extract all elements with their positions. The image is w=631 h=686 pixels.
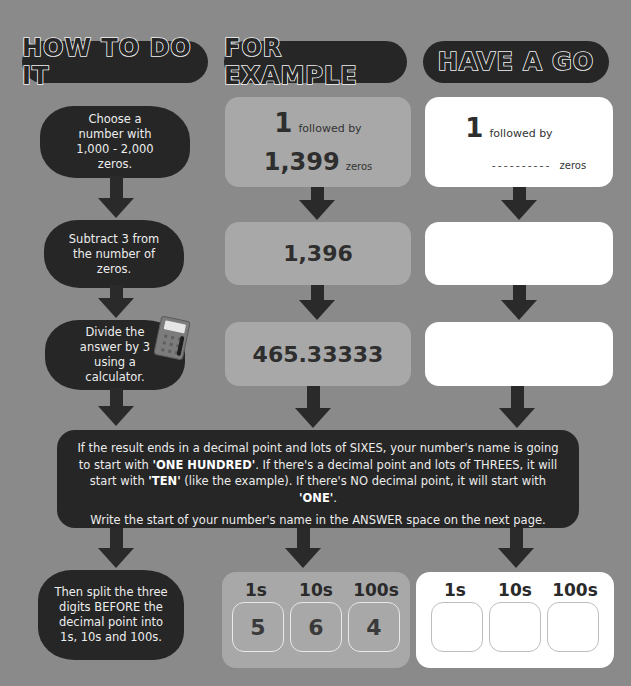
result-paragraph: If the result ends in a decimal point an…	[71, 440, 565, 506]
arrow-down-icon	[98, 406, 134, 426]
example-zeros-label: zeros	[346, 161, 373, 172]
go-label-1s: 1s	[428, 580, 482, 600]
example-label-100s: 100s	[349, 580, 403, 600]
arrow-down-icon	[501, 200, 537, 220]
go-row2-box[interactable]	[425, 222, 613, 285]
result-write-instruction: Write the start of your number's name in…	[71, 512, 565, 529]
arrow-down-icon	[110, 528, 123, 550]
arrow-down-icon	[98, 298, 134, 318]
header-example-label: FOR EXAMPLE	[224, 34, 407, 90]
go-label-10s: 10s	[488, 580, 542, 600]
example-row3-box: 465.33333	[225, 322, 411, 386]
example-one: 1	[274, 108, 292, 138]
result-one: 'ONE'	[299, 491, 333, 505]
step-2-text: Subtract 3 from the number of zeros.	[66, 232, 162, 277]
result-ten: 'TEN'	[148, 474, 180, 488]
arrow-down-icon	[299, 200, 335, 220]
example-label-10s: 10s	[289, 580, 343, 600]
header-have-a-go: HAVE A GO	[423, 41, 609, 83]
go-row3-box[interactable]	[425, 322, 613, 386]
result-text-g: .	[333, 491, 337, 505]
go-row1-box[interactable]: 1 followed by ---------- zeros	[425, 97, 613, 187]
go-label-100s: 100s	[548, 580, 602, 600]
arrow-down-icon	[499, 408, 535, 428]
result-one-hundred: 'ONE HUNDRED'	[153, 458, 256, 472]
arrow-down-icon	[511, 386, 524, 410]
arrow-down-icon	[285, 548, 321, 568]
header-how-to-do-it: HOW TO DO IT	[22, 41, 208, 83]
step-4: Then split the three digits BEFORE the d…	[38, 570, 184, 660]
example-row1-box: 1 followed by 1,399 zeros	[225, 97, 411, 187]
example-label-1s: 1s	[229, 580, 283, 600]
example-subtract-result: 1,396	[283, 241, 353, 266]
arrow-down-icon	[295, 408, 331, 428]
result-text-e: (like the example). If there's NO decima…	[181, 474, 546, 488]
go-zeros-label: zeros	[560, 160, 587, 171]
result-instructions-box: If the result ends in a decimal point an…	[57, 430, 579, 528]
arrow-down-icon	[498, 548, 534, 568]
example-digits-box: 1s 10s 100s 5 6 4	[222, 572, 410, 668]
header-how-label: HOW TO DO IT	[22, 34, 208, 90]
arrow-down-icon	[307, 386, 320, 410]
example-digit-1s: 5	[232, 602, 284, 652]
example-row2-box: 1,396	[225, 222, 411, 285]
arrow-down-icon	[98, 198, 134, 218]
go-digit-100s[interactable]	[547, 602, 599, 652]
example-followed-by: followed by	[298, 122, 361, 135]
arrow-down-icon	[510, 528, 523, 550]
example-divide-result: 465.33333	[253, 342, 384, 367]
go-digits-box: 1s 10s 100s	[416, 572, 614, 668]
arrow-down-icon	[98, 548, 134, 568]
step-3-text: Divide the answer by 3 using a calculato…	[65, 325, 165, 385]
go-one: 1	[465, 113, 483, 143]
go-followed-by: followed by	[489, 127, 552, 140]
example-digit-10s: 6	[290, 602, 342, 652]
arrow-down-icon	[297, 528, 310, 550]
arrow-down-icon	[110, 176, 123, 200]
step-1-text: Choose a number with 1,000 - 2,000 zeros…	[70, 112, 160, 172]
header-go-label: HAVE A GO	[438, 48, 594, 76]
step-2: Subtract 3 from the number of zeros.	[44, 220, 184, 288]
header-for-example: FOR EXAMPLE	[224, 41, 407, 83]
step-4-text: Then split the three digits BEFORE the d…	[54, 585, 168, 645]
arrow-down-icon	[299, 300, 335, 320]
go-zeros-blank[interactable]: ----------	[492, 159, 552, 172]
arrow-down-icon	[501, 300, 537, 320]
step-1: Choose a number with 1,000 - 2,000 zeros…	[40, 106, 190, 178]
go-digit-1s[interactable]	[431, 602, 483, 652]
example-zeros-count: 1,399	[264, 148, 340, 176]
go-digit-10s[interactable]	[489, 602, 541, 652]
example-digit-100s: 4	[348, 602, 400, 652]
